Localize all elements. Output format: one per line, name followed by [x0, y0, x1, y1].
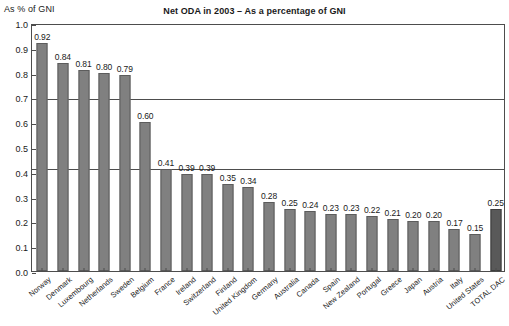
- bar-group[interactable]: 0.84: [53, 25, 74, 271]
- bar[interactable]: [140, 122, 151, 271]
- bar-group[interactable]: 0.15: [465, 25, 486, 271]
- bar-group[interactable]: 0.80: [94, 25, 115, 271]
- x-axis-tick-mark: [268, 268, 269, 271]
- bar[interactable]: [490, 209, 501, 271]
- bar-group[interactable]: 0.17: [444, 25, 465, 271]
- bar-group[interactable]: 0.92: [32, 25, 53, 271]
- bar[interactable]: [449, 229, 460, 271]
- bar-group[interactable]: 0.39: [197, 25, 218, 271]
- bar-group[interactable]: 0.23: [341, 25, 362, 271]
- bar[interactable]: [325, 214, 336, 271]
- plot-inner: 1.00.90.80.70.60.50.40.30.20.10.0 0.920.…: [32, 25, 504, 271]
- bar-group[interactable]: 0.39: [176, 25, 197, 271]
- x-axis-tick-mark: [186, 268, 187, 271]
- chart-title: Net ODA in 2003 – As a percentage of GNI: [0, 6, 509, 16]
- x-axis-tick-mark: [330, 268, 331, 271]
- bar-group[interactable]: 0.79: [114, 25, 135, 271]
- bar[interactable]: [387, 219, 398, 271]
- bar-value-label: 0.25: [488, 198, 504, 208]
- bar-value-label: 0.15: [467, 223, 483, 233]
- x-axis-tick-mark: [495, 268, 496, 271]
- bar[interactable]: [99, 73, 110, 271]
- bars-layer: 0.920.840.810.800.790.600.410.390.390.35…: [32, 25, 504, 271]
- x-axis-category-labels: NorwayDenmarkLuxembourgNetherlandsSweden…: [31, 273, 505, 326]
- x-axis-tick-mark: [372, 268, 373, 271]
- bar-value-label: 0.79: [117, 64, 133, 74]
- bar-value-label: 0.92: [34, 32, 50, 42]
- bar-value-label: 0.24: [302, 200, 318, 210]
- x-axis-tick-mark: [413, 268, 414, 271]
- y-axis-tick-label: 0.0: [0, 268, 28, 278]
- x-axis-tick-mark: [207, 268, 208, 271]
- bar-value-label: 0.23: [323, 203, 339, 213]
- y-axis-tick-label: 0.9: [0, 45, 28, 55]
- x-axis-tick-mark: [310, 268, 311, 271]
- x-axis-tick-mark: [145, 268, 146, 271]
- bar-value-label: 0.35: [220, 173, 236, 183]
- bar-value-label: 0.81: [75, 59, 91, 69]
- bar[interactable]: [202, 174, 213, 271]
- bar-group[interactable]: 0.20: [403, 25, 424, 271]
- bar-value-label: 0.25: [282, 198, 298, 208]
- y-axis-tick-label: 0.2: [0, 218, 28, 228]
- bar-group[interactable]: 0.23: [321, 25, 342, 271]
- y-axis-tick-label: 0.5: [0, 144, 28, 154]
- plot-area: 1.00.90.80.70.60.50.40.30.20.10.0 0.920.…: [31, 24, 505, 272]
- bar-value-label: 0.23: [343, 203, 359, 213]
- x-axis-tick-mark: [104, 268, 105, 271]
- bar[interactable]: [284, 209, 295, 271]
- y-axis-tick-label: 0.6: [0, 119, 28, 129]
- x-axis-tick-mark: [392, 268, 393, 271]
- y-axis-tick-label: 0.3: [0, 194, 28, 204]
- y-axis-tick-label: 0.1: [0, 243, 28, 253]
- bar[interactable]: [119, 75, 130, 271]
- bar-group[interactable]: 0.60: [135, 25, 156, 271]
- bar-value-label: 0.84: [55, 52, 71, 62]
- x-axis-tick-mark: [351, 268, 352, 271]
- x-axis-category-label: Japan: [402, 275, 424, 295]
- bar[interactable]: [37, 43, 48, 271]
- bar[interactable]: [57, 63, 68, 271]
- bar[interactable]: [346, 214, 357, 271]
- bar-value-label: 0.28: [261, 191, 277, 201]
- bar[interactable]: [305, 211, 316, 271]
- bar-value-label: 0.20: [405, 210, 421, 220]
- bar-group[interactable]: 0.25: [485, 25, 506, 271]
- bar[interactable]: [78, 70, 89, 271]
- x-axis-tick-mark: [42, 268, 43, 271]
- y-axis-tick-label: 0.4: [0, 169, 28, 179]
- bar-group[interactable]: 0.28: [259, 25, 280, 271]
- x-axis-tick-mark: [124, 268, 125, 271]
- bar-value-label: 0.39: [178, 163, 194, 173]
- bar[interactable]: [367, 216, 378, 271]
- bar-group[interactable]: 0.35: [217, 25, 238, 271]
- bar-group[interactable]: 0.41: [156, 25, 177, 271]
- bar-group[interactable]: 0.22: [362, 25, 383, 271]
- bar-value-label: 0.60: [137, 111, 153, 121]
- y-axis-tick-label: 1.0: [0, 20, 28, 30]
- x-axis-tick-mark: [289, 268, 290, 271]
- bar[interactable]: [181, 174, 192, 271]
- x-axis-tick-mark: [165, 268, 166, 271]
- bar-value-label: 0.80: [96, 62, 112, 72]
- bar[interactable]: [160, 169, 171, 271]
- bar-group[interactable]: 0.34: [238, 25, 259, 271]
- bar-value-label: 0.39: [199, 163, 215, 173]
- bar[interactable]: [470, 234, 481, 271]
- bar-group[interactable]: 0.81: [73, 25, 94, 271]
- bar-group[interactable]: 0.20: [424, 25, 445, 271]
- bar-value-label: 0.17: [446, 218, 462, 228]
- x-axis-category-label: Greece: [378, 275, 403, 298]
- x-axis-tick-mark: [227, 268, 228, 271]
- y-axis-tick-label: 0.8: [0, 70, 28, 80]
- bar[interactable]: [408, 221, 419, 271]
- bar[interactable]: [243, 187, 254, 271]
- bar-group[interactable]: 0.25: [279, 25, 300, 271]
- x-axis-tick-mark: [83, 268, 84, 271]
- bar[interactable]: [222, 184, 233, 271]
- bar-group[interactable]: 0.24: [300, 25, 321, 271]
- chart-container: As % of GNI Net ODA in 2003 – As a perce…: [0, 0, 509, 326]
- bar[interactable]: [428, 221, 439, 271]
- bar-group[interactable]: 0.21: [382, 25, 403, 271]
- bar[interactable]: [263, 202, 274, 271]
